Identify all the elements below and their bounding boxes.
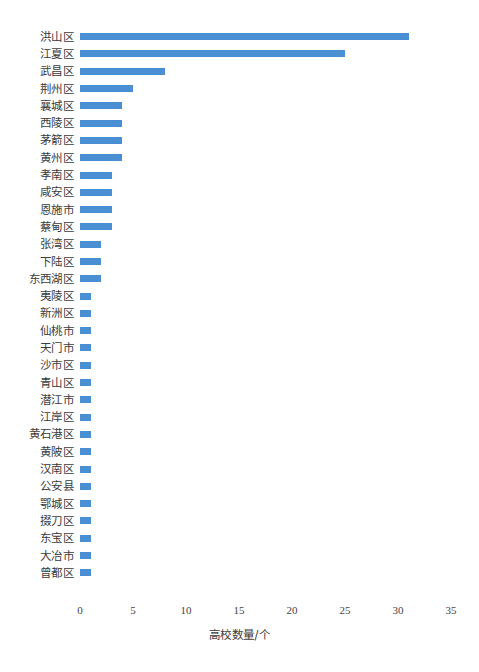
- horizontal-bar-chart: 洪山区江夏区武昌区荆州区襄城区西陵区茅箭区黄州区孝南区咸安区恩施市蔡甸区张湾区下…: [0, 0, 479, 672]
- bar: [80, 206, 112, 213]
- bar-track: [80, 184, 112, 201]
- bar-row: 青山区: [0, 374, 479, 391]
- bar-row: 曾都区: [0, 564, 479, 581]
- bar-category-label: 荆州区: [0, 83, 74, 95]
- bar-category-label: 大冶市: [0, 550, 74, 562]
- bar: [80, 500, 91, 507]
- x-axis-tick-label: 30: [393, 604, 404, 616]
- bar-category-label: 张湾区: [0, 238, 74, 250]
- bar-track: [80, 409, 91, 426]
- bar-row: 茅箭区: [0, 132, 479, 149]
- bar-track: [80, 426, 91, 443]
- bar-category-label: 西陵区: [0, 117, 74, 129]
- bar-row: 蔡甸区: [0, 218, 479, 235]
- bar-category-label: 茅箭区: [0, 134, 74, 146]
- bar-track: [80, 201, 112, 218]
- bar-track: [80, 547, 91, 564]
- bar-track: [80, 530, 91, 547]
- bar-row: 公安县: [0, 478, 479, 495]
- x-axis-tick-label: 10: [181, 604, 192, 616]
- bar-row: 下陆区: [0, 253, 479, 270]
- bar-category-label: 江岸区: [0, 411, 74, 423]
- bar: [80, 154, 122, 161]
- bar-category-label: 黄石港区: [0, 428, 74, 440]
- bar-row: 黄州区: [0, 149, 479, 166]
- bar: [80, 344, 91, 351]
- x-axis-tick-label: 0: [77, 604, 83, 616]
- bar-row: 东宝区: [0, 530, 479, 547]
- bar-row: 荆州区: [0, 80, 479, 97]
- bar-row: 大冶市: [0, 547, 479, 564]
- bar-category-label: 掇刀区: [0, 515, 74, 527]
- bar-row: 黄陂区: [0, 443, 479, 460]
- bar: [80, 396, 91, 403]
- bar-track: [80, 305, 91, 322]
- bar-category-label: 襄城区: [0, 100, 74, 112]
- bar-category-label: 咸安区: [0, 186, 74, 198]
- bar-category-label: 东宝区: [0, 532, 74, 544]
- bar-row: 孝南区: [0, 166, 479, 183]
- bar-category-label: 东西湖区: [0, 273, 74, 285]
- bar-row: 武昌区: [0, 63, 479, 80]
- bar-row: 汉南区: [0, 460, 479, 477]
- bar-category-label: 武昌区: [0, 65, 74, 77]
- bar: [80, 50, 345, 57]
- bar-track: [80, 339, 91, 356]
- bar-row: 新洲区: [0, 305, 479, 322]
- bar: [80, 535, 91, 542]
- bar-row: 江夏区: [0, 45, 479, 62]
- bar-category-label: 汉南区: [0, 463, 74, 475]
- bar-track: [80, 63, 165, 80]
- bar-track: [80, 391, 91, 408]
- x-axis-tick-label: 15: [234, 604, 245, 616]
- bar-track: [80, 166, 112, 183]
- bar: [80, 85, 133, 92]
- plot-area: 洪山区江夏区武昌区荆州区襄城区西陵区茅箭区黄州区孝南区咸安区恩施市蔡甸区张湾区下…: [0, 28, 479, 600]
- bar-track: [80, 357, 91, 374]
- bar-category-label: 黄州区: [0, 152, 74, 164]
- bar-category-label: 孝南区: [0, 169, 74, 181]
- bar-row: 洪山区: [0, 28, 479, 45]
- bar-track: [80, 236, 101, 253]
- bar-row: 沙市区: [0, 357, 479, 374]
- bar-category-label: 天门市: [0, 342, 74, 354]
- bar: [80, 189, 112, 196]
- bar-track: [80, 564, 91, 581]
- bar-track: [80, 322, 91, 339]
- bar-row: 仙桃市: [0, 322, 479, 339]
- bar: [80, 379, 91, 386]
- bar: [80, 275, 101, 282]
- bar-category-label: 新洲区: [0, 307, 74, 319]
- bar: [80, 483, 91, 490]
- bar-track: [80, 97, 122, 114]
- bar-row: 恩施市: [0, 201, 479, 218]
- bar-category-label: 蔡甸区: [0, 221, 74, 233]
- bar: [80, 223, 112, 230]
- bar: [80, 102, 122, 109]
- x-axis-tick-label: 35: [446, 604, 457, 616]
- bar-row: 鄂城区: [0, 495, 479, 512]
- bar-category-label: 鄂城区: [0, 498, 74, 510]
- bar: [80, 431, 91, 438]
- bar: [80, 293, 91, 300]
- bar-track: [80, 80, 133, 97]
- bar-track: [80, 512, 91, 529]
- bar-category-label: 沙市区: [0, 359, 74, 371]
- bar-row: 西陵区: [0, 114, 479, 131]
- bar: [80, 466, 91, 473]
- bar-row: 天门市: [0, 339, 479, 356]
- bar-row: 潜江市: [0, 391, 479, 408]
- bar: [80, 241, 101, 248]
- bar-category-label: 江夏区: [0, 48, 74, 60]
- bar-category-label: 洪山区: [0, 31, 74, 43]
- bar-category-label: 夷陵区: [0, 290, 74, 302]
- bar-category-label: 下陆区: [0, 256, 74, 268]
- bar: [80, 552, 91, 559]
- bar: [80, 448, 91, 455]
- bar: [80, 68, 165, 75]
- bar-track: [80, 149, 122, 166]
- bar: [80, 569, 91, 576]
- bar-track: [80, 218, 112, 235]
- x-axis-tick-label: 5: [130, 604, 136, 616]
- bar-track: [80, 287, 91, 304]
